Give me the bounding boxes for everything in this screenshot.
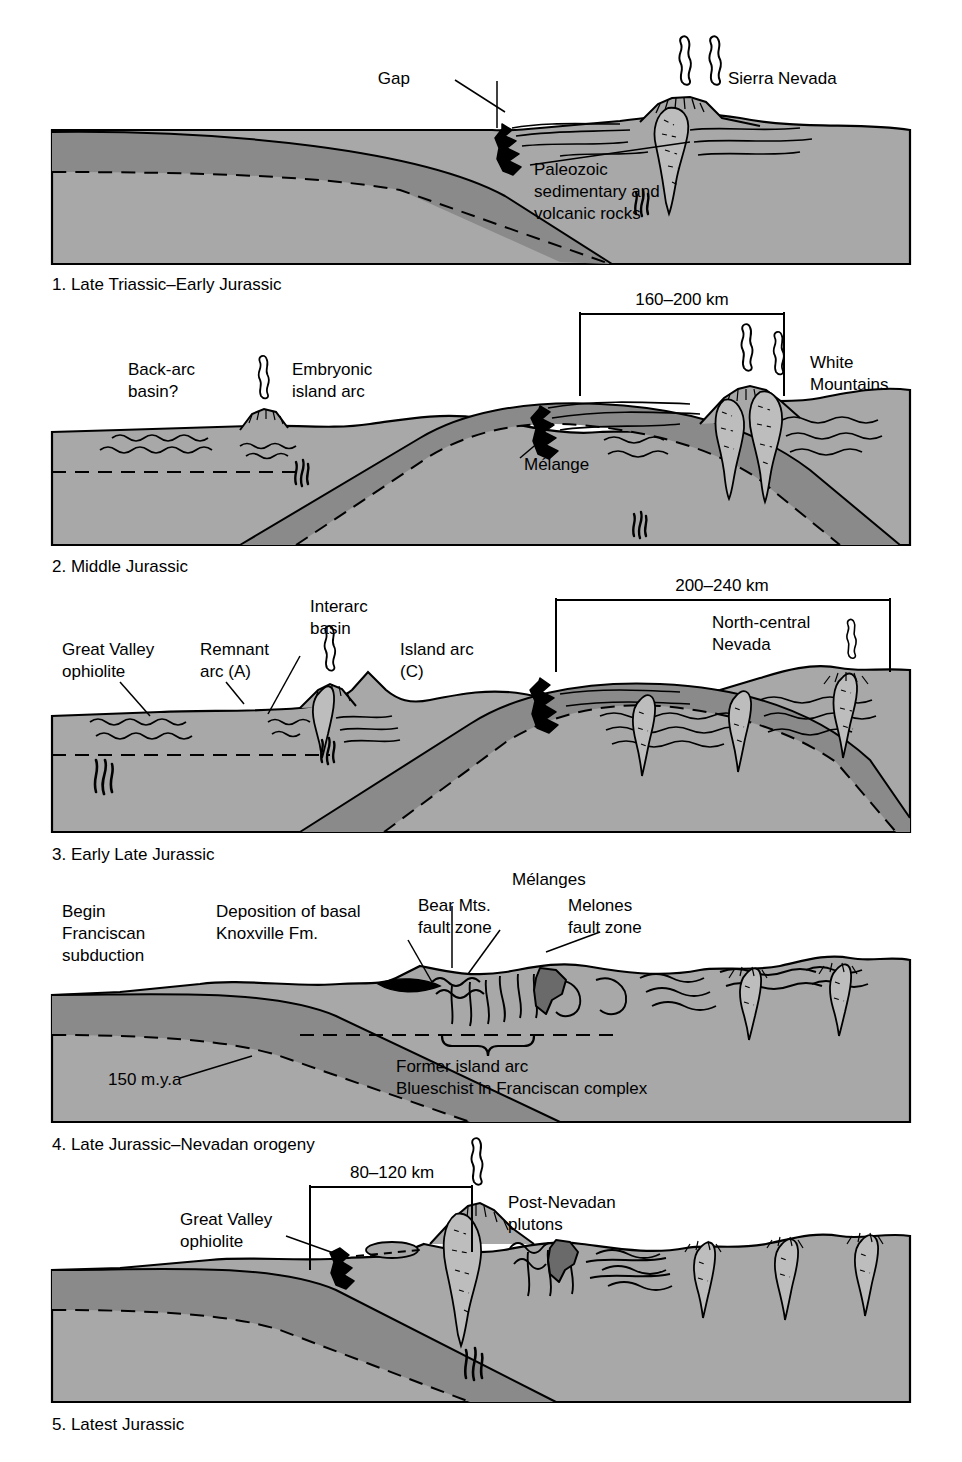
label-bear-mts-line1: Bear Mts. bbox=[418, 896, 491, 915]
label-plutons-line2: plutons bbox=[508, 1215, 563, 1234]
label-150-mya: 150 m.y.a bbox=[108, 1070, 182, 1089]
panel-2-caption: 2. Middle Jurassic bbox=[52, 557, 189, 576]
label-bear-mts-line2: fault zone bbox=[418, 918, 492, 937]
label-backarc-line1: Back-arc bbox=[128, 360, 196, 379]
subduction-evolution-figure: Gap Sierra Nevada Paleozoic sedimentary … bbox=[0, 0, 962, 1462]
label-gap: Gap bbox=[378, 69, 410, 88]
label-remnant-line2: arc (A) bbox=[200, 662, 251, 681]
plume-icon bbox=[471, 1138, 482, 1185]
diagram-canvas: Gap Sierra Nevada Paleozoic sedimentary … bbox=[0, 0, 962, 1462]
label-melones-line1: Melones bbox=[568, 896, 632, 915]
plume-icon bbox=[741, 324, 752, 370]
panel-1-caption: 1. Late Triassic–Early Jurassic bbox=[52, 275, 282, 294]
label-gvo-line2: ophiolite bbox=[62, 662, 125, 681]
plume-icon bbox=[679, 36, 691, 84]
label-melange: Mélange bbox=[524, 455, 589, 474]
ophiolite-lens-5 bbox=[366, 1242, 418, 1258]
scale-label-2: 160–200 km bbox=[635, 290, 729, 309]
panel-3-caption: 3. Early Late Jurassic bbox=[52, 845, 215, 864]
label-paleozoic-line1: Paleozoic bbox=[534, 160, 608, 179]
plume-icon bbox=[774, 332, 784, 375]
label-backarc-line2: basin? bbox=[128, 382, 178, 401]
label-paleozoic-line3: volcanic rocks bbox=[534, 204, 641, 223]
label-knoxville-line1: Deposition of basal bbox=[216, 902, 361, 921]
label-plutons-line1: Post-Nevadan bbox=[508, 1193, 616, 1212]
label-paleozoic-line2: sedimentary and bbox=[534, 182, 660, 201]
label-embryonic-line2: island arc bbox=[292, 382, 365, 401]
label-begin-line3: subduction bbox=[62, 946, 144, 965]
label-melones-line2: fault zone bbox=[568, 918, 642, 937]
label-begin-line1: Begin bbox=[62, 902, 105, 921]
panel-4-caption: 4. Late Jurassic–Nevadan orogeny bbox=[52, 1135, 315, 1154]
label-island-arc-line1: Island arc bbox=[400, 640, 474, 659]
scale-label-5: 80–120 km bbox=[350, 1163, 434, 1182]
label-former-island-arc: Former island arc bbox=[396, 1057, 529, 1076]
label-interarc-line2: basin bbox=[310, 619, 351, 638]
label-gvo5-line2: ophiolite bbox=[180, 1232, 243, 1251]
label-ncn-line1: North-central bbox=[712, 613, 810, 632]
label-gvo-line1: Great Valley bbox=[62, 640, 155, 659]
label-white-mountains-line2: Mountains bbox=[810, 375, 888, 394]
label-melanges: Mélanges bbox=[512, 870, 586, 889]
plume-icon bbox=[847, 619, 857, 658]
scale-label-3: 200–240 km bbox=[675, 576, 769, 595]
label-sierra-nevada: Sierra Nevada bbox=[728, 69, 837, 88]
label-gvo5-line1: Great Valley bbox=[180, 1210, 273, 1229]
label-embryonic-line1: Embryonic bbox=[292, 360, 373, 379]
label-remnant-line1: Remnant bbox=[200, 640, 269, 659]
label-knoxville-line2: Knoxville Fm. bbox=[216, 924, 318, 943]
label-island-arc-line2: (C) bbox=[400, 662, 424, 681]
plume-icon bbox=[709, 36, 721, 84]
label-white-mountains-line1: White bbox=[810, 353, 853, 372]
label-blueschist: Blueschist in Franciscan complex bbox=[396, 1079, 648, 1098]
label-interarc-line1: Interarc bbox=[310, 597, 368, 616]
label-ncn-line2: Nevada bbox=[712, 635, 771, 654]
panel-5-caption: 5. Latest Jurassic bbox=[52, 1415, 185, 1434]
label-begin-line2: Franciscan bbox=[62, 924, 145, 943]
plume-icon bbox=[259, 356, 269, 399]
